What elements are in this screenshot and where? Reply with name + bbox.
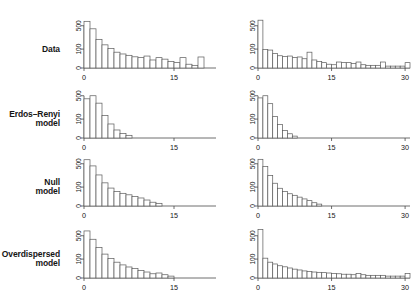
- row-label-2: Erdos–Renyimodel: [0, 84, 62, 154]
- histogram-panel-erdos-renyi-left: 0100500015: [62, 84, 220, 154]
- svg-text:15: 15: [170, 143, 178, 152]
- svg-text:100: 100: [249, 181, 256, 192]
- svg-text:0: 0: [82, 73, 86, 82]
- svg-text:500: 500: [249, 230, 256, 241]
- svg-text:500: 500: [75, 230, 82, 241]
- histogram-panel-null-model-left: 0100500015: [62, 152, 220, 222]
- row-label-3: Nullmodel: [0, 152, 62, 222]
- svg-text:15: 15: [170, 211, 178, 220]
- svg-text:30: 30: [401, 73, 409, 82]
- svg-text:0: 0: [82, 283, 86, 292]
- svg-text:0: 0: [256, 73, 260, 82]
- row-label-line1: Data: [42, 45, 60, 54]
- svg-text:100: 100: [249, 113, 256, 124]
- histogram-grid-figure: Data0100500015010050001530Erdos–Renyimod…: [0, 0, 418, 302]
- svg-text:100: 100: [249, 253, 256, 264]
- svg-text:100: 100: [249, 43, 256, 54]
- svg-text:0: 0: [249, 66, 256, 70]
- svg-text:15: 15: [170, 73, 178, 82]
- histogram-row: Nullmodel0100500015010050001530: [0, 152, 418, 222]
- histogram-panel-data-left: 0100500015: [62, 14, 220, 84]
- svg-text:0: 0: [75, 276, 82, 280]
- svg-text:15: 15: [328, 283, 336, 292]
- svg-text:0: 0: [75, 66, 82, 70]
- svg-text:500: 500: [249, 158, 256, 169]
- row-label-line2: model: [35, 187, 60, 196]
- svg-text:30: 30: [401, 211, 409, 220]
- row-label-line2: model: [9, 119, 60, 128]
- svg-text:0: 0: [75, 204, 82, 208]
- row-label-line2: model: [2, 259, 60, 268]
- svg-text:500: 500: [75, 20, 82, 31]
- histogram-row: Data0100500015010050001530: [0, 14, 418, 84]
- svg-text:0: 0: [256, 283, 260, 292]
- svg-text:0: 0: [82, 143, 86, 152]
- svg-text:0: 0: [249, 276, 256, 280]
- row-label-1: Data: [0, 14, 62, 84]
- svg-text:15: 15: [170, 283, 178, 292]
- svg-text:500: 500: [75, 90, 82, 101]
- histogram-row: Erdos–Renyimodel0100500015010050001530: [0, 84, 418, 154]
- svg-text:100: 100: [75, 181, 82, 192]
- svg-text:15: 15: [328, 143, 336, 152]
- svg-text:0: 0: [249, 204, 256, 208]
- histogram-panel-data-right: 010050001530: [236, 14, 414, 84]
- svg-text:0: 0: [82, 211, 86, 220]
- svg-text:15: 15: [328, 73, 336, 82]
- svg-text:0: 0: [256, 143, 260, 152]
- svg-text:30: 30: [401, 143, 409, 152]
- svg-text:500: 500: [249, 90, 256, 101]
- svg-text:100: 100: [75, 43, 82, 54]
- histogram-panel-overdispersed-right: 010050001530: [236, 224, 414, 294]
- svg-text:30: 30: [401, 283, 409, 292]
- svg-text:100: 100: [75, 253, 82, 264]
- svg-text:0: 0: [75, 136, 82, 140]
- row-label-4: Overdispersedmodel: [0, 224, 62, 294]
- svg-text:15: 15: [328, 211, 336, 220]
- histogram-panel-null-model-right: 010050001530: [236, 152, 414, 222]
- histogram-panel-erdos-renyi-right: 010050001530: [236, 84, 414, 154]
- histogram-panel-overdispersed-left: 0100500015: [62, 224, 220, 294]
- svg-text:0: 0: [249, 136, 256, 140]
- svg-text:0: 0: [256, 211, 260, 220]
- histogram-row: Overdispersedmodel0100500015010050001530: [0, 224, 418, 294]
- svg-text:500: 500: [75, 158, 82, 169]
- svg-text:100: 100: [75, 113, 82, 124]
- svg-text:500: 500: [249, 20, 256, 31]
